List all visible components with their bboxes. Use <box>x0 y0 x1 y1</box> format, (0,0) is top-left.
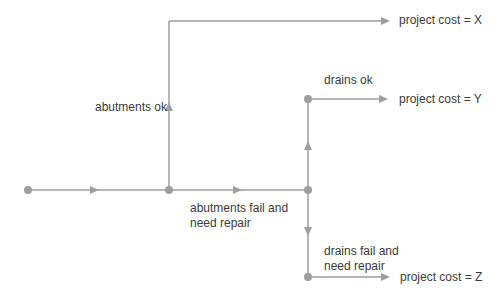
outcome-x-label: project cost = X <box>399 13 482 28</box>
arrow-right-icon <box>90 186 99 194</box>
drains-fail-label-line2: need repair <box>324 259 385 274</box>
drains-fail-node <box>304 273 312 281</box>
abutments-ok-label: abutments ok <box>95 100 167 115</box>
drains-ok-label: drains ok <box>324 73 373 88</box>
outcome-y-label: project cost = Y <box>399 92 482 107</box>
arrow-right-icon <box>381 17 390 25</box>
decision-tree-diagram <box>0 0 501 300</box>
arrow-right-icon <box>381 273 390 281</box>
drains-fail-label-line1: drains fail and <box>324 244 399 259</box>
abutments-fail-label-line2: need repair <box>190 216 251 231</box>
arrow-down-icon <box>304 227 312 236</box>
abutments-fail-label-line1: abutments fail and <box>190 201 288 216</box>
arrow-right-icon <box>233 186 242 194</box>
drains-ok-node <box>304 95 312 103</box>
outcome-z-label: project cost = Z <box>400 270 482 285</box>
drains-decision-node <box>304 186 312 194</box>
arrow-right-icon <box>379 95 388 103</box>
start-node <box>24 186 32 194</box>
abutments-decision-node <box>165 186 173 194</box>
arrow-up-icon <box>304 141 312 150</box>
